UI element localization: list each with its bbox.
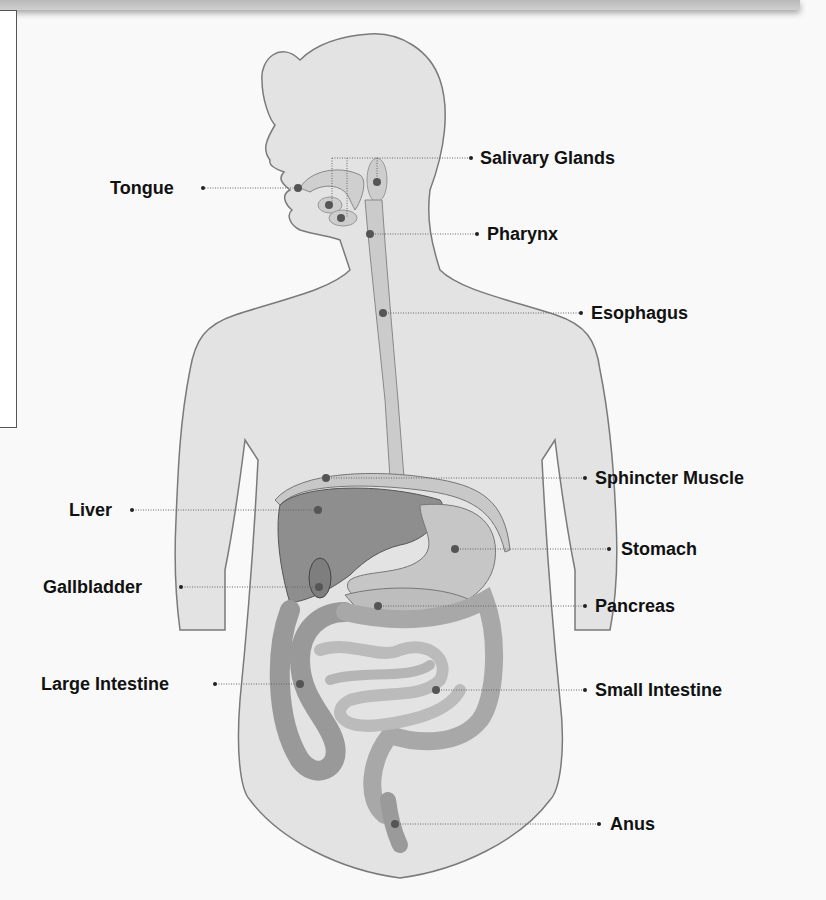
label-salivary-glands: Salivary Glands: [480, 148, 615, 168]
label-small-intestine: Small Intestine: [595, 680, 722, 700]
label-stomach: Stomach: [621, 539, 697, 559]
label-esophagus: Esophagus: [591, 303, 688, 323]
label-tongue: Tongue: [110, 178, 174, 198]
label-sphincter-muscle: Sphincter Muscle: [595, 468, 744, 488]
label-pharynx: Pharynx: [487, 224, 558, 244]
digestive-system-figure: [0, 0, 826, 900]
label-gallbladder: Gallbladder: [43, 577, 142, 597]
label-liver: Liver: [69, 500, 112, 520]
gallbladder-shape: [309, 558, 331, 598]
label-large-intestine: Large Intestine: [41, 674, 169, 694]
label-anus: Anus: [610, 814, 655, 834]
label-pancreas: Pancreas: [595, 596, 675, 616]
